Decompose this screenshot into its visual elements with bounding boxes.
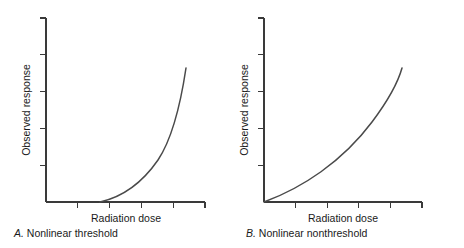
x-axis-label-a: Radiation dose [91,212,161,224]
panel-caption-text-a: Nonlinear threshold [27,227,118,239]
y-axis-label-a: Observed response [20,64,32,156]
curve-nonlinear-threshold [100,68,186,202]
panel-caption-ident-b: B. [246,227,256,239]
x-axis-label-b: Radiation dose [308,212,378,224]
panel-caption-a: A. Nonlinear threshold [14,226,118,240]
panel-nonlinear-nonthreshold: Radiation dose Observed response B. Nonl… [232,0,464,248]
dose-response-figure: Radiation dose Observed response A. Nonl… [0,0,464,248]
panel-nonlinear-threshold: Radiation dose Observed response A. Nonl… [0,0,232,248]
panel-caption-text-b: Nonlinear nonthreshold [259,227,368,239]
plot-area-a: Radiation dose Observed response [0,0,232,248]
plot-area-b: Radiation dose Observed response [232,0,464,248]
panel-caption-ident-a: A. [14,227,24,239]
curve-nonlinear-nonthreshold [264,68,402,202]
y-axis-label-b: Observed response [238,64,250,156]
panel-caption-b: B. Nonlinear nonthreshold [246,226,367,240]
